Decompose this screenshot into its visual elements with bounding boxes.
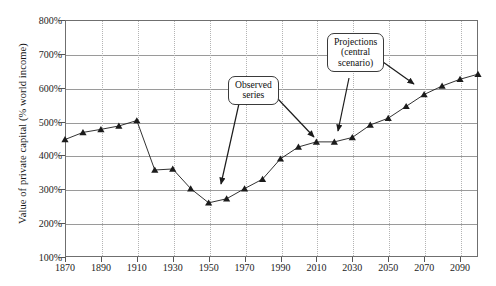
gridline-vertical	[425, 21, 426, 256]
annotation-projections-line3: scenario)	[334, 58, 377, 68]
y-tick-mark	[58, 257, 65, 258]
x-tick-label: 1970	[235, 262, 255, 273]
x-tick-label: 1910	[127, 262, 147, 273]
y-tick-label: 200%	[18, 218, 62, 229]
x-tick-label: 2090	[450, 262, 470, 273]
y-tick-mark	[58, 155, 65, 156]
y-tick-mark	[58, 54, 65, 55]
y-tick-label: 100%	[18, 252, 62, 263]
y-tick-mark	[58, 223, 65, 224]
x-tick-label: 1990	[271, 262, 291, 273]
annotation-observed-series: Observed series	[228, 76, 279, 105]
x-tick-label: 1950	[199, 262, 219, 273]
gridline-vertical	[210, 21, 211, 256]
chart-figure: Value of private capital (% world income…	[0, 0, 496, 286]
gridline-horizontal	[66, 55, 477, 56]
x-tick-label: 1870	[55, 262, 75, 273]
gridline-vertical	[389, 21, 390, 256]
annotation-observed-line2: series	[235, 90, 272, 100]
x-tick-label: 2070	[414, 262, 434, 273]
annotation-projections: Projections (central scenario)	[327, 33, 384, 72]
x-tick-label: 2030	[342, 262, 362, 273]
gridline-vertical	[461, 21, 462, 256]
gridline-horizontal	[66, 156, 477, 157]
y-tick-mark	[58, 189, 65, 190]
x-tick-label: 2010	[306, 262, 326, 273]
y-tick-label: 400%	[18, 150, 62, 161]
gridline-horizontal	[66, 190, 477, 191]
x-tick-label: 1890	[91, 262, 111, 273]
y-tick-label: 500%	[18, 116, 62, 127]
gridline-horizontal	[66, 123, 477, 124]
y-axis-tick-labels: 800% 700% 600% 500% 400% 300% 200% 100%	[0, 0, 62, 286]
gridline-horizontal	[66, 224, 477, 225]
y-tick-label: 800%	[18, 15, 62, 26]
y-tick-mark	[58, 88, 65, 89]
gridline-vertical	[282, 21, 283, 256]
gridline-vertical	[174, 21, 175, 256]
gridline-vertical	[246, 21, 247, 256]
y-tick-mark	[58, 20, 65, 21]
y-tick-label: 700%	[18, 48, 62, 59]
y-tick-label: 600%	[18, 82, 62, 93]
x-tick-label: 2050	[378, 262, 398, 273]
y-tick-label: 300%	[18, 184, 62, 195]
plot-area	[65, 20, 478, 257]
gridline-vertical	[102, 21, 103, 256]
x-tick-label: 1930	[163, 262, 183, 273]
gridline-vertical	[317, 21, 318, 256]
gridline-vertical	[138, 21, 139, 256]
y-tick-mark	[58, 122, 65, 123]
